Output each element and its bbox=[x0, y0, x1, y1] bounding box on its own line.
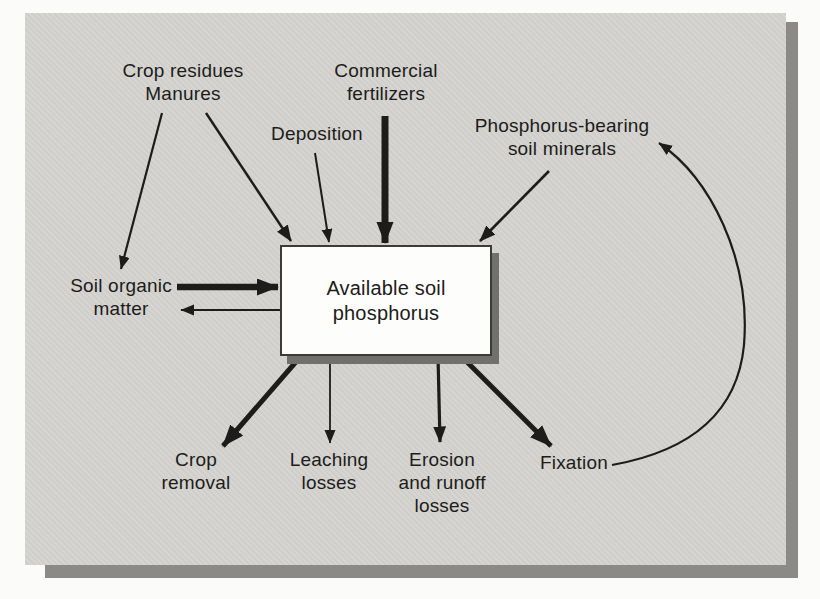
available-phosphorus-box: Available soil phosphorus bbox=[280, 245, 492, 356]
label-fixation: Fixation bbox=[540, 451, 608, 474]
figure-canvas: Available soil phosphorus Crop residues … bbox=[0, 0, 820, 599]
label-soil-organic-matter: Soil organic matter bbox=[70, 274, 172, 320]
label-phosphorus-minerals: Phosphorus-bearing soil minerals bbox=[475, 114, 650, 160]
label-deposition: Deposition bbox=[271, 122, 363, 145]
label-erosion-losses: Erosion and runoff losses bbox=[398, 448, 485, 517]
arrow-box-to-crop-removal bbox=[223, 356, 301, 446]
label-crop-removal: Crop removal bbox=[162, 448, 231, 494]
arrow-box-to-fixation bbox=[460, 355, 551, 446]
arrow-box-to-erosion bbox=[438, 356, 440, 442]
available-phosphorus-label: Available soil phosphorus bbox=[326, 276, 445, 326]
label-commercial-fertilizers: Commercial fertilizers bbox=[334, 59, 437, 105]
label-crop-residues: Crop residues Manures bbox=[123, 59, 244, 105]
label-leaching-losses: Leaching losses bbox=[290, 448, 369, 494]
arrow-deposition-to-box bbox=[315, 153, 329, 242]
arrow-residues-to-organic bbox=[121, 113, 162, 269]
arrow-fixation-to-minerals bbox=[612, 143, 745, 465]
arrow-minerals-to-box bbox=[480, 171, 549, 241]
